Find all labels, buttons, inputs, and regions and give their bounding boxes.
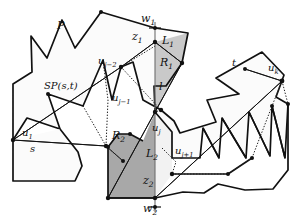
label-region-R2: R2 [112, 130, 125, 144]
vertex-p-top [99, 10, 103, 14]
vertex-spike-d [286, 102, 290, 106]
dotted-chain-u1-diag [83, 106, 106, 146]
label-s: s [30, 144, 35, 154]
vertex-z1 [153, 40, 157, 44]
vertex-p-left [11, 138, 15, 142]
vertex-uj-minus-2 [119, 65, 123, 69]
label-uj-minus-2: uj−2 [98, 56, 117, 69]
vertex-s [121, 159, 125, 163]
vertex-spike-b [250, 156, 254, 160]
label-z1: z1 [132, 31, 143, 45]
label-uk: uk [268, 63, 279, 76]
label-region-L2: L2 [146, 148, 158, 162]
label-t: t [232, 58, 236, 68]
label-line-l: l [159, 81, 163, 92]
vertex-sp-bend [128, 132, 132, 136]
vertex-uj-plus-1 [170, 172, 174, 176]
label-uj-minus-1: uj−1 [112, 93, 131, 106]
vertex-left-mid [46, 92, 50, 96]
label-w2: w2 [143, 203, 157, 217]
label-uj: uj [152, 123, 161, 136]
label-w1: w1 [141, 13, 155, 27]
vertex-spike-c [270, 104, 274, 108]
vertex-uj [153, 110, 157, 114]
vertex-t [243, 67, 247, 71]
vertex-r2-left [106, 145, 110, 149]
vertex-r1-right [180, 61, 184, 65]
label-region-L1: L1 [162, 35, 174, 49]
vertex-uk [280, 79, 285, 84]
label-u1: u1 [22, 128, 33, 141]
label-z2: z2 [143, 175, 154, 189]
geometry-figure: P SP(s,t) w1 z1 L1 R1 l uj−2 uj−1 u1 s R… [0, 0, 296, 218]
vertex-spike-a [226, 172, 230, 176]
label-uj-plus-1: uj+1 [175, 146, 194, 159]
label-polygon-P: P [57, 20, 64, 31]
vertex-uj-minus-1 [159, 108, 163, 112]
vertex-z2 [153, 196, 157, 200]
label-shortest-path: SP(s,t) [44, 81, 78, 91]
label-region-R1: R1 [160, 57, 173, 71]
vertex-r2-bottomleft [106, 196, 110, 200]
